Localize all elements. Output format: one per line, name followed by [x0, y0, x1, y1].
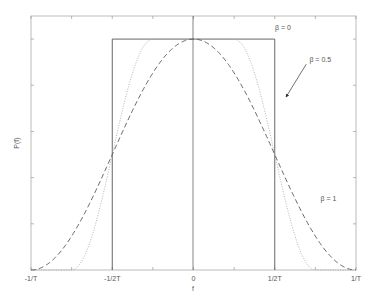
- x-tick-label: -1/T: [25, 275, 38, 282]
- axis-ticks: [31, 16, 356, 270]
- x-tick-labels: -1/T-1/2T01/2T1/T: [25, 275, 362, 282]
- annotation-label: β = 0.5: [309, 56, 331, 64]
- series-lines: [31, 39, 356, 270]
- x-axis-label: f: [192, 285, 194, 292]
- raised-cosine-chart: -1/T-1/2T01/2T1/T f P(f) β = 0β = 0.5β =…: [0, 0, 372, 306]
- series-line-beta-0-5: [31, 39, 356, 270]
- annotations: β = 0β = 0.5β = 1: [275, 24, 337, 203]
- annotation-label: β = 1: [320, 195, 336, 203]
- x-tick-label: 0: [192, 275, 196, 282]
- x-tick-label: -1/2T: [104, 275, 121, 282]
- annotation-arrow: [286, 64, 306, 97]
- series-line-beta-0: [112, 39, 275, 270]
- y-axis-label: P(f): [13, 137, 21, 148]
- series-line-beta-1: [31, 39, 356, 270]
- plot-frame: [31, 16, 356, 270]
- x-tick-label: 1/T: [351, 275, 362, 282]
- annotation-label: β = 0: [275, 24, 291, 32]
- x-tick-label: 1/2T: [268, 275, 283, 282]
